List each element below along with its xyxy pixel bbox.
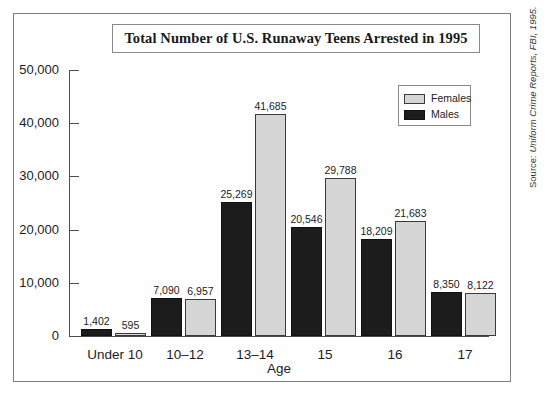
page-title: Total Number of U.S. Runaway Teens Arres… [124, 30, 467, 47]
bar-value-label: 6,957 [179, 286, 222, 297]
legend-swatch-females-icon [404, 94, 425, 104]
source-note: Source: Uniform Crime Reports, FBI, 1995… [528, 6, 538, 188]
bar-males-4 [361, 239, 392, 336]
y-axis-tick [70, 123, 79, 124]
x-axis-category-label: 17 [417, 348, 513, 362]
y-axis-tick-label-text: 40,000 [19, 116, 59, 129]
chart-figure: Total Number of U.S. Runaway Teens Arres… [0, 0, 557, 399]
y-axis-tick-label-text: 50,000 [19, 63, 59, 76]
x-axis-title: Age [69, 362, 489, 376]
bar-males-2 [221, 202, 252, 336]
y-axis-tick-label-text: 20,000 [19, 223, 59, 236]
bar-females-5 [465, 293, 496, 336]
legend-label-females: Females [431, 93, 471, 104]
legend-swatch-males-icon [404, 110, 425, 120]
bar-males-1 [151, 298, 182, 336]
y-axis-tick [70, 283, 79, 284]
bar-females-1 [185, 299, 216, 336]
bar-value-label: 41,685 [249, 101, 292, 112]
bar-females-4 [395, 221, 426, 336]
y-axis-tick-label: 40,000 [3, 116, 59, 130]
x-axis-line [69, 336, 489, 337]
bar-value-label: 595 [109, 320, 152, 331]
y-axis-tick-label: 50,000 [3, 63, 59, 77]
bar-males-3 [291, 227, 322, 336]
legend-item-females: Females [404, 92, 471, 105]
y-axis-tick-label: 20,000 [3, 223, 59, 237]
y-axis-tick-label-text: 30,000 [19, 169, 59, 182]
bar-value-label: 25,269 [215, 189, 258, 200]
bar-females-3 [325, 178, 356, 336]
bar-females-2 [255, 114, 286, 336]
y-axis-tick-label-text: 10,000 [19, 276, 59, 289]
source-prefix: Source: [527, 153, 538, 188]
y-axis-tick-label: 0 [3, 329, 59, 343]
chart-legend: Females Males [398, 85, 471, 126]
bar-males-0 [81, 329, 112, 336]
bar-value-label: 21,683 [389, 208, 432, 219]
y-axis-line [69, 70, 70, 336]
bar-females-0 [115, 333, 146, 336]
bar-males-5 [431, 292, 462, 336]
bar-value-label: 18,209 [355, 226, 398, 237]
y-axis-tick [70, 70, 79, 71]
y-axis-tick [70, 336, 79, 337]
chart-title-box: Total Number of U.S. Runaway Teens Arres… [112, 24, 480, 53]
y-axis-tick-label: 10,000 [3, 276, 59, 290]
bar-value-label: 20,546 [285, 214, 328, 225]
y-axis-tick-label-text: 0 [52, 329, 59, 342]
y-axis-tick [70, 176, 79, 177]
bar-value-label: 29,788 [319, 165, 362, 176]
legend-label-males: Males [431, 109, 459, 120]
y-axis-tick-label: 30,000 [3, 169, 59, 183]
legend-item-males: Males [404, 108, 459, 121]
y-axis-tick [70, 230, 79, 231]
bar-value-label: 8,122 [459, 280, 502, 291]
source-text: Uniform Crime Reports, FBI, 1995. [527, 6, 538, 152]
